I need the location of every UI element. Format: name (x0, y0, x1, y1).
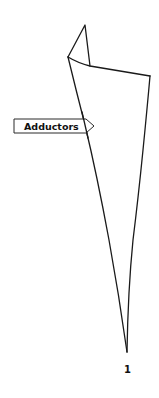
left-edge-outline (68, 57, 127, 352)
adductors-label: Adductors (24, 121, 79, 132)
adductors-diagram: Adductors 1 (0, 0, 159, 398)
adductors-label-callout: Adductors (14, 119, 94, 133)
folded-flap-outline (68, 25, 90, 66)
right-edge-outline (127, 76, 150, 352)
top-edge-outline (68, 57, 150, 76)
figure-number: 1 (124, 364, 131, 375)
